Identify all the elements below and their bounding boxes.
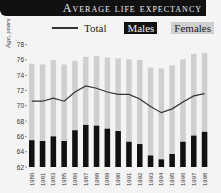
x-tick-label: 1992 [137,172,143,186]
x-tick-label: 1980 [29,172,35,186]
bar-males [40,141,46,167]
bar-males [105,129,111,167]
y-tick-label: 70 [17,102,25,109]
x-tick-label: 1986 [72,172,78,186]
x-tick-label: 1989 [104,172,110,186]
x-tick-label: 1996 [180,172,186,186]
bar-males [137,144,143,167]
bar-females [169,65,175,167]
x-tick-label: 1990 [115,172,121,186]
x-tick-label: 1997 [191,172,197,186]
bar-males [191,136,197,167]
bar-males [148,156,154,167]
x-tick-label: 1998 [202,172,208,186]
bar-males [115,131,121,167]
bar-males [202,132,208,167]
bar-females [159,68,165,167]
y-tick-label: 72 [17,87,25,94]
x-tick-label: 1994 [158,172,164,186]
chart-root: Average life expectancy Age, years Total… [0,0,221,193]
bar-males [126,142,132,167]
bar-males [83,125,89,167]
bar-females [148,68,154,167]
bar-males [72,130,78,167]
y-tick-label: 76 [17,56,25,63]
x-tick-label: 1983 [50,172,56,186]
y-tick-label: 74 [17,72,25,79]
x-tick-label: 1993 [148,172,154,186]
x-tick-label: 1988 [94,172,100,186]
x-tick-label: 1995 [169,172,175,186]
y-tick-label: 78 [17,41,25,48]
bar-males [94,126,100,167]
x-tick-label: 1987 [83,172,89,186]
bar-males [169,154,175,167]
bar-males [180,142,186,167]
bar-males [159,159,165,167]
y-tick-label: 62 [17,164,25,171]
x-tick-label: 1985 [61,172,67,186]
y-tick-label: 68 [17,118,25,125]
x-tick-label: 1981 [40,172,46,186]
bar-males [51,136,57,167]
plot-area: 6264666870727476781980198119831985198619… [0,0,221,193]
bar-males [61,141,67,167]
x-tick-label: 1991 [126,172,132,186]
bar-males [29,140,35,167]
y-tick-label: 66 [17,133,25,140]
y-tick-label: 64 [17,148,25,155]
